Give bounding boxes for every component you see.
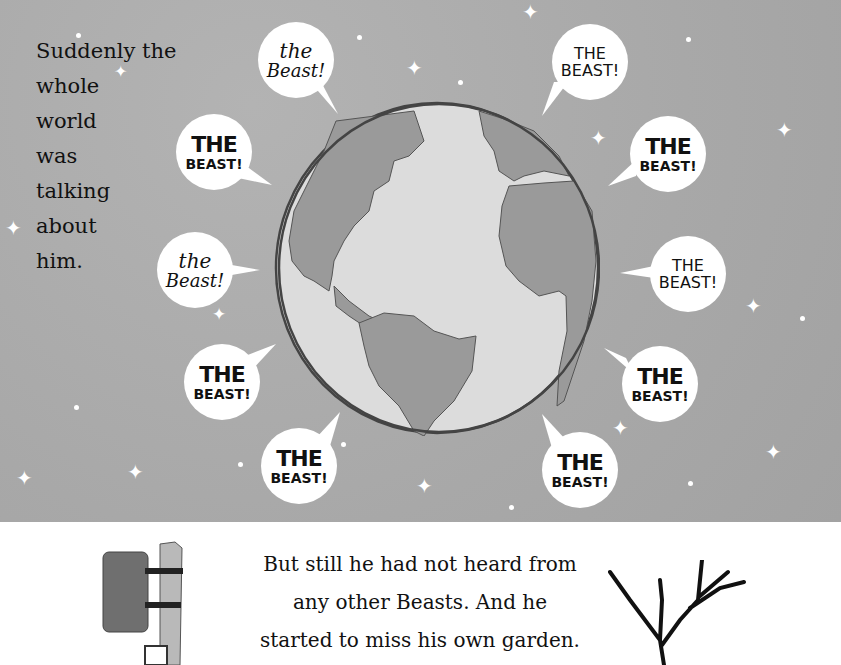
signpost-illustration <box>100 540 190 665</box>
intro-line: about <box>36 209 176 244</box>
caption-line: any other Beasts. And he <box>180 583 660 621</box>
intro-line: him. <box>36 244 176 279</box>
speech-bubble: THE BEAST! <box>622 346 698 422</box>
speech-bubble: the Beast! <box>258 22 334 98</box>
sky-panel: ✦ ✦ ✦ ✦ ✦ ✦ ✦ ✦ ✦ ✦ ✦ ✦ ✦ Suddenly the w… <box>0 0 841 522</box>
intro-line: was <box>36 139 176 174</box>
speech-bubble: the Beast! <box>157 232 233 308</box>
star-icon: ✦ <box>212 306 226 323</box>
speech-bubble: THE BEAST! <box>650 236 726 312</box>
dot-star <box>800 316 805 321</box>
star-icon: ✦ <box>776 120 793 140</box>
bare-tree-illustration <box>600 560 750 665</box>
dot-star <box>509 505 514 510</box>
globe-illustration <box>274 101 600 436</box>
star-icon: ✦ <box>745 296 762 316</box>
speech-bubble: THE BEAST! <box>176 114 252 190</box>
intro-line: talking <box>36 174 176 209</box>
dot-star <box>74 405 79 410</box>
book-page: ✦ ✦ ✦ ✦ ✦ ✦ ✦ ✦ ✦ ✦ ✦ ✦ ✦ Suddenly the w… <box>0 0 841 665</box>
star-icon: ✦ <box>416 476 433 496</box>
caption-line: started to miss his own garden. <box>180 621 660 659</box>
speech-bubble: THE BEAST! <box>184 344 260 420</box>
intro-text: Suddenly the whole world was talking abo… <box>36 34 176 279</box>
star-icon: ✦ <box>5 218 22 238</box>
intro-line: whole <box>36 69 176 104</box>
dot-star <box>458 80 463 85</box>
dot-star <box>688 481 693 486</box>
star-icon: ✦ <box>612 418 629 438</box>
intro-line: Suddenly the <box>36 34 176 69</box>
star-icon: ✦ <box>127 462 144 482</box>
dot-star <box>238 462 243 467</box>
star-icon: ✦ <box>522 2 539 22</box>
speech-bubble: THE BEAST! <box>552 24 628 100</box>
dot-star <box>686 37 691 42</box>
speech-bubble: THE BEAST! <box>542 432 618 508</box>
caption-text: But still he had not heard from any othe… <box>180 545 660 659</box>
star-icon: ✦ <box>16 468 33 488</box>
speech-bubble: THE BEAST! <box>630 116 706 192</box>
dot-star <box>357 35 362 40</box>
speech-bubble: THE BEAST! <box>261 428 337 504</box>
caption-line: But still he had not heard from <box>180 545 660 583</box>
star-icon: ✦ <box>765 442 782 462</box>
intro-line: world <box>36 104 176 139</box>
star-icon: ✦ <box>406 58 423 78</box>
